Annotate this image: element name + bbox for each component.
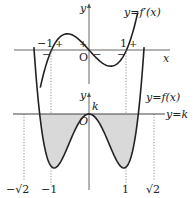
tick-label-sqrt2: √2 bbox=[146, 183, 160, 196]
tick-label-neg-sqrt2: −√2 bbox=[6, 183, 29, 196]
top-y-label: y bbox=[79, 2, 87, 15]
tick-label-neg1: −1 bbox=[41, 183, 57, 196]
derivative-curve-label: y=f′(x) bbox=[123, 6, 161, 19]
top-graph: y x O −1 1 − + + − − + y=f′(x) bbox=[14, 2, 170, 88]
diagram: y x O −1 1 − + + − − + y=f′(x) y y=k k O bbox=[0, 0, 196, 198]
function-curve-label: y=f(x) bbox=[145, 91, 180, 104]
bottom-y-label: y bbox=[79, 89, 87, 102]
top-origin-label: O bbox=[79, 51, 88, 64]
sign-mark: + bbox=[55, 38, 63, 49]
bottom-y-axis-arrow bbox=[87, 92, 91, 97]
top-y-axis-arrow bbox=[87, 3, 91, 8]
k-label: k bbox=[92, 100, 99, 113]
top-x-label: x bbox=[163, 52, 170, 65]
line-k-label: y=k bbox=[165, 108, 188, 121]
tick-label-1: 1 bbox=[122, 183, 129, 196]
bottom-graph: y y=k k O y=f(x) −√2 −1 1 √2 bbox=[6, 47, 188, 196]
